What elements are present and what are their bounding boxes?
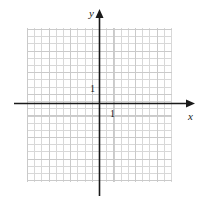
y-axis-tick-label-1: 1: [90, 84, 95, 94]
x-axis-arrowhead: [186, 100, 195, 108]
coordinate-plane-figure: y x 1 1: [0, 0, 201, 201]
x-axis-tick-label-1: 1: [110, 109, 115, 119]
y-axis-label: y: [89, 8, 94, 19]
axes-layer: [0, 0, 201, 201]
y-axis-arrowhead: [96, 9, 104, 18]
x-axis-label: x: [188, 111, 193, 122]
